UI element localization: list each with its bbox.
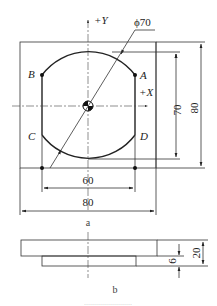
dim-80-horizontal-label: 80 <box>83 196 95 208</box>
point-B-marker <box>40 73 44 77</box>
dim-80-vertical-label: 80 <box>188 102 200 114</box>
y-axis-label: +Y <box>94 14 109 26</box>
dim-20-label: 20 <box>190 247 202 259</box>
caption-a: a <box>86 217 91 228</box>
point-C-label: C <box>28 130 36 142</box>
dim-6-label: 6 <box>166 258 178 264</box>
point-B-label: B <box>28 68 35 80</box>
top-view: ϕ70 +Y +X A B C D 70 80 60 80 a <box>12 14 205 228</box>
point-bottom-right-marker <box>133 166 137 170</box>
technical-drawing: ϕ70 +Y +X A B C D 70 80 60 80 a <box>0 0 217 306</box>
dim-70-label: 70 <box>171 104 183 116</box>
diameter-label: ϕ70 <box>134 16 151 28</box>
side-bottom-boss <box>42 256 136 266</box>
point-A-label: A <box>139 69 147 81</box>
x-axis-label: +X <box>139 86 154 98</box>
cut-off-caption: …………………… <box>84 300 132 306</box>
point-bottom-left-marker <box>40 166 44 170</box>
side-top-plate <box>21 240 157 256</box>
point-A-marker <box>133 73 137 77</box>
point-D-label: D <box>139 130 148 142</box>
dim-60-label: 60 <box>83 174 95 186</box>
caption-b: b <box>113 284 118 295</box>
side-view: 6 20 b <box>21 232 208 295</box>
